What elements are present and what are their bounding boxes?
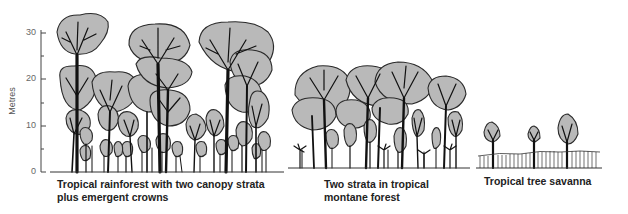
caption-montane-line1: Two strata in tropical: [324, 178, 429, 191]
caption-rainforest-line1: Tropical rainforest with two canopy stra…: [57, 178, 265, 191]
caption-montane: Two strata in tropical montane forest: [324, 178, 429, 204]
caption-savanna: Tropical tree savanna: [484, 175, 591, 188]
caption-montane-line2: montane forest: [324, 191, 429, 204]
y-axis: [41, 30, 46, 172]
caption-rainforest: Tropical rainforest with two canopy stra…: [57, 178, 265, 204]
caption-savanna-line1: Tropical tree savanna: [484, 175, 591, 188]
rainforest-profile: [50, 14, 284, 172]
caption-rainforest-line2: plus emergent crowns: [57, 191, 265, 204]
montane-profile: [288, 62, 470, 168]
savanna-profile: [476, 114, 602, 168]
